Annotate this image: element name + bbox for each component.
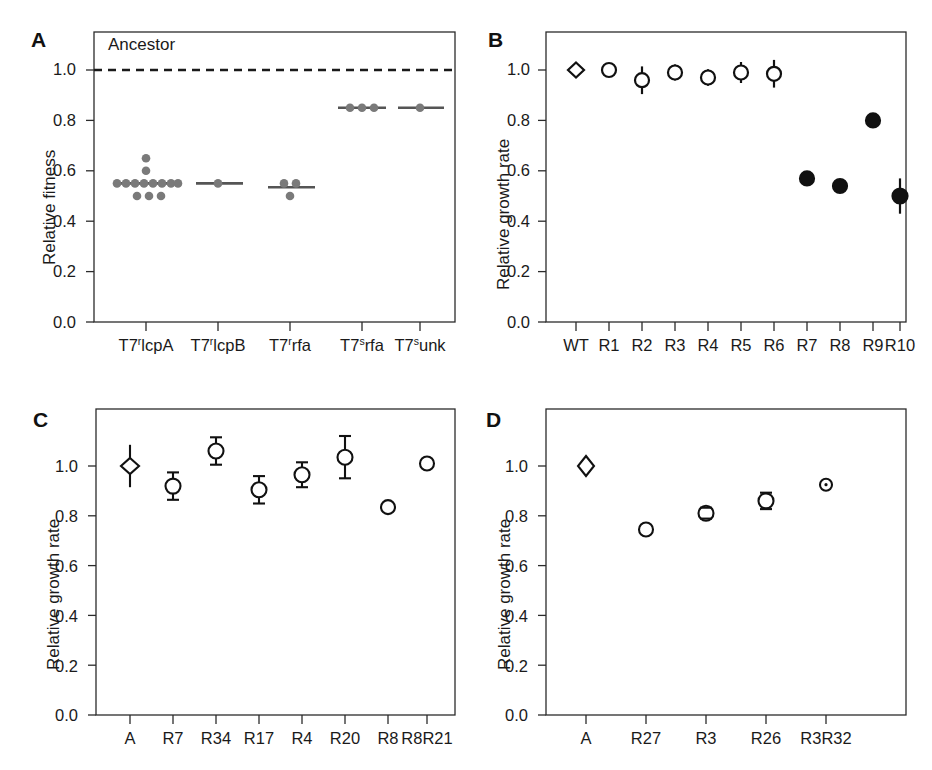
- panel-d-y-ticks: [538, 466, 546, 715]
- panel-a-point: [142, 154, 151, 163]
- panel-b-datapoint-r4: [701, 69, 715, 86]
- panel-d-plot: [460, 385, 932, 770]
- panel-b-y-ticks: [538, 70, 546, 322]
- panel-b-datapoint-r8: [833, 179, 847, 193]
- panel-b-x-ticks: [576, 322, 900, 331]
- panel-a-point: [157, 192, 166, 201]
- panel-b-datapoint-r2: [635, 66, 649, 94]
- panel-d-x-ticks: [586, 715, 826, 724]
- panel-a-point: [370, 104, 379, 113]
- panel-d: D Relative growth rate 0.0 0.2 0.4 0.6 0…: [460, 385, 932, 770]
- panel-d-xtick-r27: R27: [620, 729, 672, 748]
- panel-a-xtick-t7sunk: T7sunk: [373, 336, 467, 355]
- panel-a-group-t7sunk: [398, 104, 444, 113]
- panel-a-group-t7rrfa: [268, 179, 315, 200]
- panel-c-datapoint-r34: [209, 437, 224, 464]
- panel-d-datapoint-r3: [699, 506, 714, 521]
- figure-root: A Relative fitness 0.0 0.2 0.4 0.6 0.8 1…: [0, 0, 932, 770]
- panel-a-point: [346, 104, 355, 113]
- panel-a-group-t7rlcpa: [113, 154, 183, 200]
- panel-c-datapoint-r8r21: [420, 457, 434, 471]
- panel-a-point: [113, 179, 122, 188]
- panel-a-point: [140, 179, 149, 188]
- panel-d-xtick-a: A: [560, 729, 612, 748]
- panel-a-group-t7srfa: [338, 104, 386, 113]
- panel-b-datapoint-r5: [734, 62, 748, 83]
- panel-c-xtick-r8r21: R8R21: [393, 729, 461, 748]
- panel-c-plot: [0, 385, 470, 770]
- panel-b: B Relative growth rate 0.0 0.2 0.4 0.6 0…: [470, 0, 932, 385]
- panel-a-plot-frame: [94, 32, 455, 322]
- panel-c-x-ticks: [130, 715, 427, 724]
- panel-c-plot-frame: [96, 409, 455, 715]
- panel-a-point: [280, 179, 289, 188]
- panel-c-y-ticks: [88, 466, 96, 715]
- panel-a-group-t7rlcpb: [196, 179, 243, 188]
- panel-d-xtick-r3: R3: [680, 729, 732, 748]
- panel-c-datapoint-r8: [381, 500, 395, 514]
- panel-a-point: [133, 192, 142, 201]
- panel-a-point: [131, 179, 140, 188]
- panel-a-point: [174, 179, 183, 188]
- panel-c-datapoint-r17: [252, 476, 267, 503]
- panel-a-point: [416, 104, 425, 113]
- panel-b-datapoint-r1: [602, 63, 616, 77]
- panel-a-point: [142, 167, 151, 176]
- panel-b-datapoint-r6: [767, 60, 781, 88]
- panel-b-datapoint-r3: [668, 64, 682, 80]
- panel-a-x-ticks: [146, 322, 420, 331]
- panel-a-point: [149, 179, 158, 188]
- panel-a: A Relative fitness 0.0 0.2 0.4 0.6 0.8 1…: [0, 0, 470, 385]
- panel-a-point: [358, 104, 367, 113]
- panel-d-datapoint-r26: [759, 493, 774, 509]
- panel-d-plot-frame: [546, 409, 906, 715]
- panel-c-datapoint-r7: [166, 472, 181, 499]
- panel-a-point: [145, 192, 154, 201]
- panel-b-plot-frame: [546, 32, 906, 322]
- panel-c-datapoint-a: [121, 445, 139, 487]
- panel-a-point: [286, 192, 295, 201]
- panel-b-xtick-r10: R10: [874, 336, 926, 355]
- panel-a-point: [122, 179, 131, 188]
- panel-c: C Relative growth rate 0.0 0.2 0.4 0.6 0…: [0, 385, 470, 770]
- panel-b-datapoint-r7: [800, 171, 814, 185]
- panel-d-xtick-r26: R26: [740, 729, 792, 748]
- panel-d-datapoint-r27: [639, 523, 653, 537]
- panel-b-datapoint-r10: [893, 178, 908, 213]
- panel-a-point: [158, 179, 167, 188]
- panel-b-datapoint-r9: [866, 113, 880, 127]
- panel-c-datapoint-r4: [295, 462, 310, 487]
- panel-b-datapoint-wt: [568, 63, 584, 78]
- panel-a-point: [214, 179, 223, 188]
- panel-d-datapoint-a: [578, 456, 594, 476]
- panel-b-plot: [470, 0, 932, 385]
- panel-d-xtick-r3r32: R3R32: [792, 729, 860, 748]
- panel-a-plot: [0, 0, 470, 385]
- panel-c-datapoint-r20: [338, 436, 353, 478]
- panel-d-datapoint-r3r32: [820, 479, 832, 491]
- panel-a-point: [292, 179, 301, 188]
- panel-a-y-ticks: [86, 70, 94, 322]
